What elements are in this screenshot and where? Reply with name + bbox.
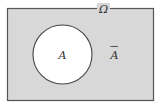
set-a-label: A <box>58 49 67 62</box>
venn-diagram: Ω A A <box>0 0 155 112</box>
universal-set-label: Ω <box>98 3 108 16</box>
complement-label: A <box>110 49 119 62</box>
